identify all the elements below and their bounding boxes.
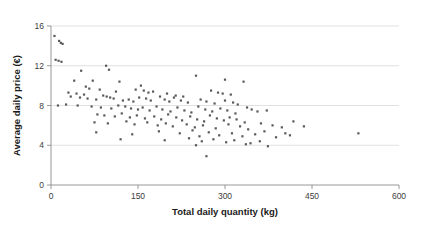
data-point xyxy=(275,136,277,138)
x-tick-label-450: 450 xyxy=(305,191,319,201)
data-point xyxy=(357,132,359,134)
data-point xyxy=(213,102,215,104)
data-point xyxy=(188,137,190,139)
data-point xyxy=(138,96,140,98)
data-point xyxy=(216,117,218,119)
data-point xyxy=(108,69,110,71)
scatter-chart: 0481216 0150300450600 Average daily pric… xyxy=(0,0,428,236)
data-point xyxy=(233,139,235,141)
data-point xyxy=(212,138,214,140)
data-point xyxy=(85,86,87,88)
data-point xyxy=(137,108,139,110)
data-point xyxy=(271,124,273,126)
data-point xyxy=(133,123,135,125)
data-point xyxy=(53,35,55,37)
x-tick-labels-group: 0150300450600 xyxy=(49,191,407,201)
data-point xyxy=(100,106,102,108)
data-point xyxy=(93,121,95,123)
data-point xyxy=(73,80,75,82)
data-point xyxy=(147,91,149,93)
data-point xyxy=(57,104,59,106)
data-point xyxy=(95,98,97,100)
data-point xyxy=(165,122,167,124)
data-point xyxy=(224,79,226,81)
data-points-group xyxy=(53,35,359,157)
data-point xyxy=(142,106,144,108)
y-tick-label-0: 0 xyxy=(39,180,44,190)
chart-canvas: 0481216 0150300450600 Average daily pric… xyxy=(0,0,428,236)
data-point xyxy=(160,118,162,120)
data-point xyxy=(230,93,232,95)
data-point xyxy=(60,61,62,63)
data-point xyxy=(67,91,69,93)
data-point xyxy=(237,103,239,105)
data-point xyxy=(103,114,105,116)
data-point xyxy=(197,105,199,107)
data-point xyxy=(284,132,286,134)
data-point xyxy=(164,139,166,141)
y-tick-label-4: 4 xyxy=(39,140,44,150)
data-point xyxy=(77,104,79,106)
data-point xyxy=(182,95,184,97)
data-point xyxy=(289,134,291,136)
data-point xyxy=(169,110,171,112)
data-point xyxy=(132,100,134,102)
data-point xyxy=(303,125,305,127)
data-point xyxy=(172,125,174,127)
data-point xyxy=(150,99,152,101)
data-point xyxy=(239,125,241,127)
data-point xyxy=(83,93,85,95)
data-point xyxy=(110,107,112,109)
data-point xyxy=(129,116,131,118)
data-point xyxy=(189,115,191,117)
data-point xyxy=(223,119,225,121)
data-point xyxy=(135,89,137,91)
data-point xyxy=(96,113,98,115)
data-point xyxy=(75,92,77,94)
data-point xyxy=(225,141,227,143)
data-point xyxy=(234,112,236,114)
data-point xyxy=(205,155,207,157)
data-point xyxy=(256,110,258,112)
y-tick-label-12: 12 xyxy=(35,61,45,71)
data-point xyxy=(145,97,147,99)
y-tick-label-16: 16 xyxy=(35,21,45,31)
data-point xyxy=(86,97,88,99)
data-point xyxy=(128,98,130,100)
data-point xyxy=(181,119,183,121)
data-point xyxy=(58,40,60,42)
data-point xyxy=(70,95,72,97)
data-point xyxy=(121,112,123,114)
data-point xyxy=(195,144,197,146)
data-point xyxy=(247,128,249,130)
data-point xyxy=(91,105,93,107)
x-tick-label-600: 600 xyxy=(392,191,406,201)
data-point xyxy=(65,103,67,105)
data-point xyxy=(198,135,200,137)
data-point xyxy=(114,115,116,117)
data-point xyxy=(153,115,155,117)
data-point xyxy=(191,129,193,131)
x-tick-label-300: 300 xyxy=(218,191,232,201)
data-point xyxy=(55,59,57,61)
data-point xyxy=(136,114,138,116)
data-point xyxy=(167,113,169,115)
data-point xyxy=(200,98,202,100)
data-point xyxy=(203,120,205,122)
data-point xyxy=(161,108,163,110)
data-point xyxy=(166,92,168,94)
data-point xyxy=(267,145,269,147)
data-point xyxy=(62,43,64,45)
data-point xyxy=(224,99,226,101)
data-point xyxy=(140,85,142,87)
data-point xyxy=(241,135,243,137)
data-point xyxy=(204,108,206,110)
data-point xyxy=(143,89,145,91)
data-point xyxy=(266,109,268,111)
data-point xyxy=(158,130,160,132)
data-point xyxy=(109,96,111,98)
data-point xyxy=(107,122,109,124)
data-point xyxy=(196,118,198,120)
data-point xyxy=(57,60,59,62)
data-point xyxy=(113,97,115,99)
